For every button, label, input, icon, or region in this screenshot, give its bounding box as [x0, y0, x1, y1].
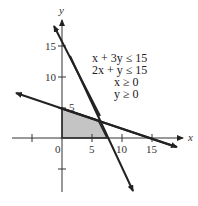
y-tick-15: 15 [45, 40, 57, 52]
y-axis-label: y [58, 4, 64, 16]
x-tick-15: 15 [146, 143, 158, 155]
x-tick-5: 5 [89, 143, 95, 155]
x-tick-10: 10 [116, 143, 128, 155]
linear-programming-graph: 0 5 10 15 5 10 15 x y x + 3y ≤ 15 2x + y… [0, 0, 198, 206]
origin-label: 0 [55, 143, 61, 155]
y-tick-10: 10 [45, 71, 57, 83]
inequality-4: y ≥ 0 [114, 87, 139, 101]
chart-canvas: 0 5 10 15 5 10 15 x y x + 3y ≤ 15 2x + y… [0, 0, 198, 206]
y-tick-5: 5 [69, 101, 75, 113]
x-axis-label: x [187, 131, 193, 143]
